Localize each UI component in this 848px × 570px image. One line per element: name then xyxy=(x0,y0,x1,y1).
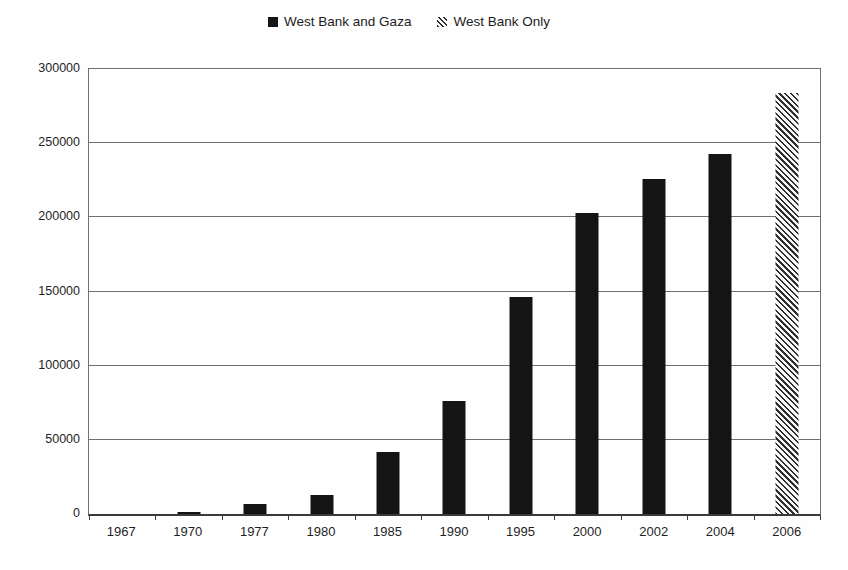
solid-square-icon xyxy=(268,17,278,27)
bar-1985 xyxy=(377,452,400,514)
x-axis-tick xyxy=(222,515,223,520)
bar-1980 xyxy=(310,495,333,514)
bar-2004 xyxy=(709,154,732,514)
x-tick-label-2002: 2002 xyxy=(620,524,687,539)
bar-slot-1995 xyxy=(488,69,554,514)
bar-slot-2006 xyxy=(754,69,820,514)
y-tick-label-0: 0 xyxy=(10,506,80,520)
y-tick-label-300000: 300000 xyxy=(10,61,80,75)
bar-1990 xyxy=(443,401,466,514)
x-tick-label-1970: 1970 xyxy=(155,524,222,539)
x-tick-label-1990: 1990 xyxy=(421,524,488,539)
x-axis-tick xyxy=(554,515,555,520)
bar-slot-2002 xyxy=(621,69,687,514)
x-axis-tick xyxy=(488,515,489,520)
bar-2000 xyxy=(576,213,599,514)
bar-2002 xyxy=(642,179,665,514)
x-tick-label-1977: 1977 xyxy=(221,524,288,539)
legend-item-west-bank-and-gaza: West Bank and Gaza xyxy=(268,14,411,29)
bar-slot-1977 xyxy=(222,69,288,514)
chart-legend: West Bank and Gaza West Bank Only xyxy=(0,14,818,29)
bar-2006 xyxy=(775,93,798,514)
x-axis-tick xyxy=(820,515,821,520)
bar-slot-2000 xyxy=(554,69,620,514)
bar-series xyxy=(89,69,820,514)
x-axis-tick xyxy=(687,515,688,520)
x-axis-tick xyxy=(421,515,422,520)
x-axis-tick xyxy=(89,515,90,520)
x-tick-label-1995: 1995 xyxy=(487,524,554,539)
x-axis-labels: 1967197019771980198519901995200020022004… xyxy=(88,524,820,539)
x-tick-label-1985: 1985 xyxy=(354,524,421,539)
y-tick-label-50000: 50000 xyxy=(10,432,80,446)
x-tick-label-1967: 1967 xyxy=(88,524,155,539)
y-tick-label-150000: 150000 xyxy=(10,284,80,298)
settlers-bar-chart-figure: West Bank and Gaza West Bank Only 196719… xyxy=(0,0,848,570)
legend-label-west-bank-only: West Bank Only xyxy=(453,14,550,29)
x-tick-label-2000: 2000 xyxy=(554,524,621,539)
bar-slot-2004 xyxy=(687,69,753,514)
x-axis-tick xyxy=(355,515,356,520)
y-tick-label-100000: 100000 xyxy=(10,358,80,372)
diagonal-hatch-square-icon xyxy=(437,17,447,27)
bar-slot-1990 xyxy=(421,69,487,514)
bar-1995 xyxy=(509,297,532,514)
y-tick-label-200000: 200000 xyxy=(10,209,80,223)
x-tick-label-2006: 2006 xyxy=(753,524,820,539)
bar-1970 xyxy=(177,512,200,514)
x-axis-tick xyxy=(155,515,156,520)
x-axis-tick xyxy=(288,515,289,520)
bar-slot-1985 xyxy=(355,69,421,514)
x-axis-tick xyxy=(754,515,755,520)
x-tick-label-2004: 2004 xyxy=(687,524,754,539)
x-tick-label-1980: 1980 xyxy=(288,524,355,539)
bar-slot-1980 xyxy=(288,69,354,514)
bar-1977 xyxy=(244,504,267,514)
bar-slot-1967 xyxy=(89,69,155,514)
legend-item-west-bank-only: West Bank Only xyxy=(437,14,550,29)
plot-area xyxy=(88,68,821,516)
x-axis-tick xyxy=(621,515,622,520)
y-tick-label-250000: 250000 xyxy=(10,135,80,149)
bar-slot-1970 xyxy=(155,69,221,514)
legend-label-west-bank-and-gaza: West Bank and Gaza xyxy=(284,14,411,29)
